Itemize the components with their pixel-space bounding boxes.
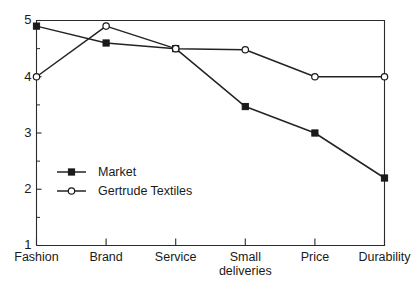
data-point-marker [312,130,318,136]
legend-marker [68,188,74,194]
y-axis-tick-label: 4 [24,69,31,84]
chart-canvas: 12345 FashionBrandServiceSmalldeliveries… [0,0,417,292]
y-axis-tick-label: 3 [24,125,31,140]
x-axis-tick-label: Durability [358,250,411,264]
data-point-marker [381,175,387,181]
data-point-marker [312,74,318,80]
data-point-marker [103,40,109,46]
x-axis-tick-label: Brand [89,250,122,264]
data-point-marker [173,45,179,51]
x-axis-tick-label: Service [155,250,197,264]
legend-label: Market [98,165,137,179]
legend-marker [68,169,74,175]
y-axis-tick-label: 2 [24,181,31,196]
data-point-marker [103,23,109,29]
data-point-marker [242,103,248,109]
chart-background [0,0,417,292]
x-axis-tick-label: Fashion [14,250,59,264]
x-axis-tick-label: deliveries [219,264,272,278]
legend-label: Gertrude Textiles [98,184,192,198]
data-point-marker [33,74,39,80]
data-point-marker [242,47,248,53]
x-axis-tick-label: Small [230,250,261,264]
line-chart: 12345 FashionBrandServiceSmalldeliveries… [0,0,417,292]
y-axis-tick-label: 5 [24,12,31,27]
x-axis-tick-label: Price [301,250,330,264]
data-point-marker [381,74,387,80]
data-point-marker [33,23,39,29]
